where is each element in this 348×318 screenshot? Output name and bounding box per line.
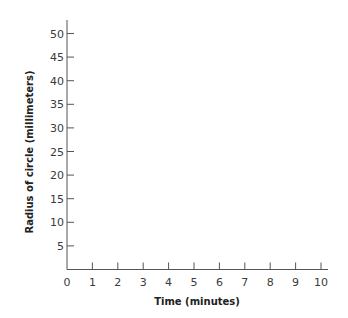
x-tick-label: 1	[89, 276, 96, 289]
y-tick-label: 20	[50, 169, 64, 182]
y-tick-label: 30	[50, 122, 64, 135]
axes	[67, 20, 328, 270]
x-tick-label: 9	[292, 276, 299, 289]
y-tick-label: 40	[50, 75, 64, 88]
x-tick-label: 3	[140, 276, 147, 289]
x-tick-label: 7	[241, 276, 248, 289]
x-tick-label: 10	[314, 276, 328, 289]
x-tick-label: 0	[64, 276, 71, 289]
y-tick-label: 35	[50, 98, 64, 111]
chart: 012345678910 5101520253035404550 Time (m…	[0, 0, 348, 318]
x-tick-label: 2	[114, 276, 121, 289]
y-tick-label: 10	[50, 216, 64, 229]
x-tick-label: 4	[165, 276, 172, 289]
x-tick-label: 5	[191, 276, 198, 289]
y-tick-label: 45	[50, 51, 64, 64]
y-tick-label: 15	[50, 193, 64, 206]
x-tick-label: 8	[267, 276, 274, 289]
x-axis-ticks: 012345678910	[64, 263, 329, 289]
y-tick-label: 25	[50, 146, 64, 159]
y-tick-label: 5	[57, 240, 64, 253]
x-axis-title: Time (minutes)	[154, 296, 240, 307]
y-axis-ticks: 5101520253035404550	[50, 28, 74, 253]
y-axis-title: Radius of circle (millimeters)	[24, 70, 35, 233]
y-tick-label: 50	[50, 28, 64, 41]
x-tick-label: 6	[216, 276, 223, 289]
